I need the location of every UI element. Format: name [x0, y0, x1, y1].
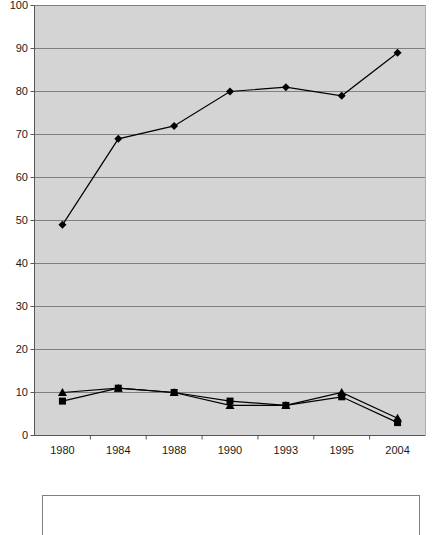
x-axis-tick-label: 1984 — [90, 445, 146, 456]
y-axis-tick-label: 0 — [2, 430, 28, 441]
x-axis-tick-label: 1993 — [258, 445, 314, 456]
y-axis-tick-label: 50 — [2, 215, 28, 226]
y-axis-tick-label: 10 — [2, 387, 28, 398]
y-axis-tick-label: 70 — [2, 129, 28, 140]
y-axis-tick-label: 30 — [2, 301, 28, 312]
x-axis-tick-label: 1990 — [202, 445, 258, 456]
x-axis-tick-label: 2004 — [370, 445, 426, 456]
x-axis-tick-label: 1995 — [314, 445, 370, 456]
y-axis-tick-label: 20 — [2, 344, 28, 355]
x-axis-tick-label: 1980 — [34, 445, 90, 456]
x-axis-tick-label: 1988 — [146, 445, 202, 456]
y-axis-tick-label: 90 — [2, 43, 28, 54]
y-axis-tick-label: 60 — [2, 172, 28, 183]
legend-box — [42, 495, 420, 535]
y-axis-tick-label: 80 — [2, 86, 28, 97]
data-point-square — [59, 398, 66, 405]
y-axis-tick-label: 40 — [2, 258, 28, 269]
y-axis-tick-label: 100 — [2, 0, 28, 11]
